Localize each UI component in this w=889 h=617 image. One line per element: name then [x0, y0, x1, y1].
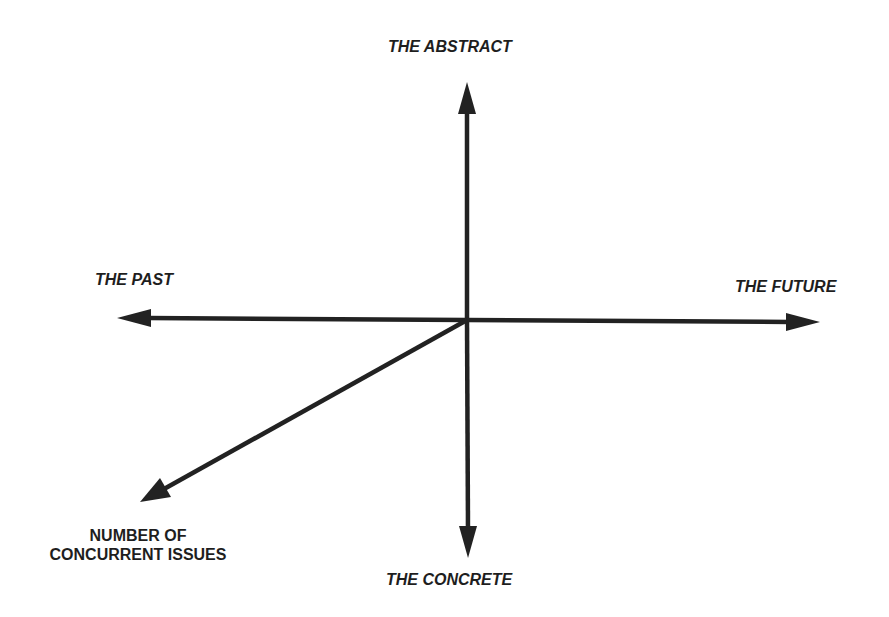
- label-number-of-concurrent-issues: NUMBER OF CONCURRENT ISSUES: [30, 526, 246, 564]
- arrow-down-icon: [459, 526, 477, 558]
- label-the-concrete: THE CONCRETE: [386, 570, 512, 589]
- arrow-diagonal-icon: [140, 478, 171, 502]
- axis-left-line: [148, 318, 467, 320]
- label-issues-line-2: CONCURRENT ISSUES: [30, 545, 246, 564]
- axis-lines: [148, 110, 790, 530]
- label-the-future: THE FUTURE: [735, 277, 836, 296]
- axis-down-line: [467, 320, 468, 530]
- label-the-past: THE PAST: [95, 270, 173, 289]
- arrow-right-icon: [786, 313, 820, 331]
- axis-diagonal-line: [164, 320, 467, 489]
- arrow-left-icon: [117, 309, 151, 327]
- axes-diagram: [0, 0, 889, 617]
- arrow-up-icon: [458, 82, 476, 114]
- label-the-abstract: THE ABSTRACT: [388, 37, 512, 56]
- axis-right-line: [467, 320, 790, 322]
- label-issues-line-1: NUMBER OF: [30, 526, 246, 545]
